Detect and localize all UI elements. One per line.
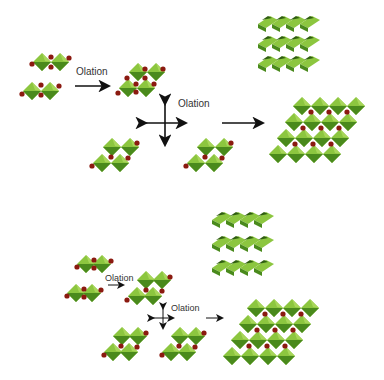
olation-label-bottom-2: Olation	[171, 303, 200, 313]
bottom-dimer-1	[74, 255, 113, 273]
four-way-arrow	[145, 103, 185, 144]
olation-label-bottom-1: Olation	[105, 273, 134, 283]
top-tetramer-2	[89, 138, 139, 172]
bottom-tetramer-2	[101, 327, 148, 361]
top-dimer-2	[19, 82, 61, 100]
bottom-dimer-2	[64, 284, 103, 302]
top-layered-stack	[258, 16, 320, 72]
bottom-tetramer-3	[159, 327, 206, 361]
olation-label-top-2: Olation	[178, 98, 210, 109]
top-tetramer-3	[183, 138, 233, 172]
bottom-layered-stack	[212, 212, 274, 276]
four-way-arrow-small	[153, 308, 173, 328]
top-dimer-1	[29, 53, 71, 71]
top-hexagonal-sheet	[269, 97, 365, 163]
olation-diagram	[0, 0, 384, 380]
olation-label-top-1: Olation	[76, 66, 108, 77]
bottom-hexagonal-sheet	[223, 299, 319, 365]
top-tetramer-1	[115, 63, 165, 97]
